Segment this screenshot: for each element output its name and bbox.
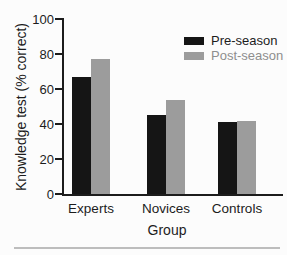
y-tick-mark bbox=[55, 53, 62, 55]
bar-novices-post-season bbox=[166, 100, 185, 195]
x-tick-label-novices: Novices bbox=[142, 201, 190, 216]
y-tick-mark bbox=[55, 123, 62, 125]
bar-experts-pre-season bbox=[72, 77, 91, 194]
bar-experts-post-season bbox=[91, 59, 110, 194]
y-tick-mark bbox=[55, 193, 62, 195]
y-tick-mark bbox=[55, 18, 62, 20]
y-tick-label-20: 20 bbox=[40, 152, 54, 167]
bar-controls-pre-season bbox=[218, 122, 237, 194]
x-tick-label-experts: Experts bbox=[68, 201, 114, 216]
figure-panel: Knowledge test (% correct) 020406080100 … bbox=[0, 0, 287, 255]
bottom-rule bbox=[14, 247, 280, 249]
y-tick-mark bbox=[55, 88, 62, 90]
bar-controls-post-season bbox=[237, 121, 256, 195]
y-tick-label-0: 0 bbox=[47, 187, 54, 202]
x-tick-label-controls: Controls bbox=[212, 201, 262, 216]
bar-novices-pre-season bbox=[147, 115, 166, 194]
pre-season-swatch bbox=[184, 37, 204, 45]
y-tick-label-80: 80 bbox=[40, 47, 54, 62]
legend-item-post-season: Post-season bbox=[184, 48, 283, 63]
legend-label-pre-season: Pre-season bbox=[211, 34, 277, 47]
y-tick-mark bbox=[55, 158, 62, 160]
y-tick-label-60: 60 bbox=[40, 82, 54, 97]
legend: Pre-season Post-season bbox=[184, 33, 283, 63]
y-tick-label-40: 40 bbox=[40, 117, 54, 132]
post-season-swatch bbox=[184, 52, 204, 60]
legend-item-pre-season: Pre-season bbox=[184, 33, 283, 48]
x-axis-line bbox=[62, 194, 283, 196]
y-axis-line bbox=[62, 18, 64, 196]
legend-label-post-season: Post-season bbox=[211, 49, 283, 62]
y-tick-label-100: 100 bbox=[32, 12, 54, 27]
x-axis-title: Group bbox=[148, 222, 187, 238]
y-axis-title: Knowledge test (% correct) bbox=[13, 23, 29, 191]
